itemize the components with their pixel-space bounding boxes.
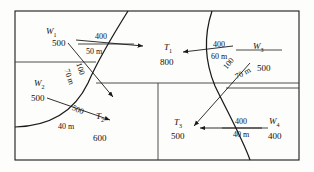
node-label-t3: T3 [174, 118, 182, 129]
node-label-t2: T2 [96, 112, 104, 123]
flow-value-f6: 400 [235, 118, 247, 126]
node-label-w4: W4 [269, 117, 280, 128]
node-value-w1: 500 [52, 39, 66, 48]
outer-frame [15, 11, 299, 160]
flow-length-f3: 40 m [58, 123, 74, 131]
internal-dividers [15, 62, 299, 160]
node-label-t1: T1 [164, 43, 172, 54]
flow-length-f1: 50 m [86, 48, 102, 56]
node-value-w4: 400 [268, 132, 282, 141]
node-value-w2: 500 [31, 94, 45, 103]
flow-length-f6: 40 m [233, 131, 249, 139]
node-label-w3: W3 [253, 42, 264, 53]
node-value-t2: 600 [93, 134, 107, 143]
diagram-canvas: W1 500 W2 500 W3 500 W4 400 T1 800 T2 60… [0, 0, 314, 172]
node-label-w2: W2 [34, 79, 45, 90]
node-label-w1: W1 [46, 27, 57, 38]
flow-label-rules [78, 44, 282, 128]
node-value-w3: 500 [257, 64, 271, 73]
node-value-t3: 500 [171, 132, 185, 141]
node-value-t1: 800 [160, 58, 174, 67]
flow-value-f1: 400 [95, 33, 107, 41]
flow-value-f4: 400 [213, 41, 225, 49]
